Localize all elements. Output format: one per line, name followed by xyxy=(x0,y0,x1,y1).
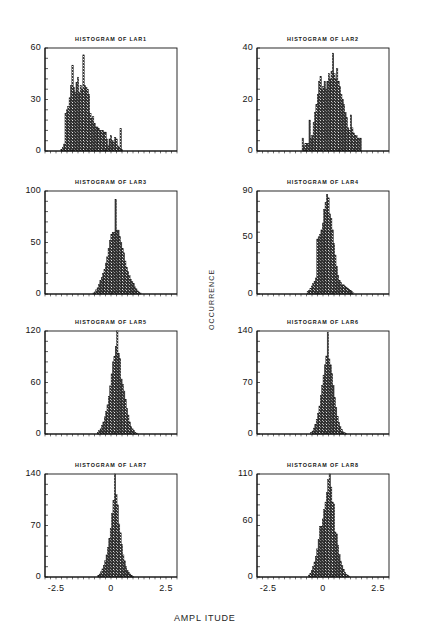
plot-area-4 xyxy=(215,191,393,324)
histogram-panel-1: HISTOGRAM OF LAR103060 xyxy=(3,36,177,173)
y-tick-label: 70 xyxy=(3,520,41,530)
panel-title: HISTOGRAM OF LAR2 xyxy=(257,36,389,42)
y-tick-label: 20 xyxy=(215,94,253,104)
y-tick-label: 50 xyxy=(3,237,41,247)
y-tick-label: 0 xyxy=(215,571,253,581)
plot-area-2 xyxy=(215,48,393,181)
histogram-panel-6: HISTOGRAM OF LAR6070140 xyxy=(215,319,389,456)
y-tick-label: 0 xyxy=(3,571,41,581)
y-tick-label: 0 xyxy=(215,288,253,298)
histogram-panel-8: HISTOGRAM OF LAR8060110-2.502.5 xyxy=(215,462,389,599)
y-tick-label: 0 xyxy=(215,145,253,155)
x-tick-label: -2.5 xyxy=(42,583,70,593)
histogram-panel-5: HISTOGRAM OF LAR5060120 xyxy=(3,319,177,456)
y-tick-label: 120 xyxy=(3,325,41,335)
histogram-panel-7: HISTOGRAM OF LAR7070140-2.502.5 xyxy=(3,462,177,599)
histogram-panel-3: HISTOGRAM OF LAR3050100 xyxy=(3,179,177,316)
panel-title: HISTOGRAM OF LAR6 xyxy=(257,319,389,325)
x-tick-label: -2.5 xyxy=(254,583,282,593)
histogram-panel-2: HISTOGRAM OF LAR202040 xyxy=(215,36,389,173)
panel-title: HISTOGRAM OF LAR1 xyxy=(45,36,177,42)
plot-area-5 xyxy=(3,331,181,464)
y-tick-label: 140 xyxy=(215,325,253,335)
y-tick-label: 0 xyxy=(3,428,41,438)
y-tick-label: 0 xyxy=(3,145,41,155)
x-tick-label: 0 xyxy=(97,583,125,593)
y-tick-label: 110 xyxy=(215,468,253,478)
histogram-figure: HISTOGRAM OF LAR103060HISTOGRAM OF LAR20… xyxy=(0,0,432,643)
y-axis-title: OCCURRENCE xyxy=(208,269,215,330)
y-tick-label: 60 xyxy=(215,515,253,525)
y-tick-label: 140 xyxy=(3,468,41,478)
y-tick-label: 100 xyxy=(3,185,41,195)
panel-title: HISTOGRAM OF LAR4 xyxy=(257,179,389,185)
y-tick-label: 0 xyxy=(215,428,253,438)
y-tick-label: 90 xyxy=(215,185,253,195)
panel-title: HISTOGRAM OF LAR5 xyxy=(45,319,177,325)
panel-title: HISTOGRAM OF LAR8 xyxy=(257,462,389,468)
y-tick-label: 60 xyxy=(3,42,41,52)
panel-title: HISTOGRAM OF LAR3 xyxy=(45,179,177,185)
y-tick-label: 30 xyxy=(3,94,41,104)
x-tick-label: 2.5 xyxy=(152,583,180,593)
histogram-panel-4: HISTOGRAM OF LAR405090 xyxy=(215,179,389,316)
y-tick-label: 40 xyxy=(215,42,253,52)
x-tick-label: 0 xyxy=(309,583,337,593)
plot-area-6 xyxy=(215,331,393,464)
plot-area-1 xyxy=(3,48,181,181)
plot-area-3 xyxy=(3,191,181,324)
y-tick-label: 50 xyxy=(215,231,253,241)
y-tick-label: 60 xyxy=(3,377,41,387)
x-axis-title: AMPL ITUDE xyxy=(174,613,236,623)
y-tick-label: 70 xyxy=(215,377,253,387)
panel-title: HISTOGRAM OF LAR7 xyxy=(45,462,177,468)
x-tick-label: 2.5 xyxy=(364,583,392,593)
y-tick-label: 0 xyxy=(3,288,41,298)
